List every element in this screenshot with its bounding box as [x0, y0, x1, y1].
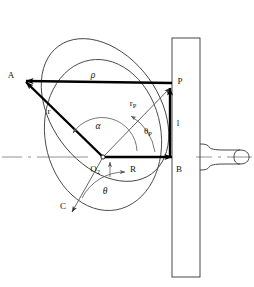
vector-l: l	[170, 88, 180, 157]
vector-R: R	[103, 157, 172, 177]
point-c-label: C	[60, 201, 66, 211]
point-a-label: A	[8, 70, 15, 80]
angle-arc-alpha: α	[73, 118, 137, 151]
disc-outline-tilted	[15, 14, 195, 205]
angle-arc-theta-p: θP	[131, 116, 155, 152]
angle-theta-p-label: θP	[144, 126, 152, 137]
diagram-canvas: ρ r rP R l	[0, 0, 254, 287]
angle-alpha-label: α	[96, 121, 102, 131]
vector-rho: ρ	[26, 70, 172, 83]
vector-rho-label: ρ	[90, 70, 96, 80]
vector-r-label: r	[48, 106, 51, 116]
point-p-label: P	[177, 76, 182, 86]
vector-rp-label: rP	[130, 98, 137, 109]
length-l-label: l	[177, 118, 180, 128]
vertical-plate	[172, 38, 200, 277]
angle-theta-label: θ	[103, 186, 108, 196]
point-b-label: B	[176, 164, 182, 174]
origin-point	[101, 155, 105, 159]
radius-R-label: R	[130, 164, 136, 174]
line-to-C	[72, 157, 103, 212]
technical-diagram: ρ r rP R l	[0, 0, 254, 287]
